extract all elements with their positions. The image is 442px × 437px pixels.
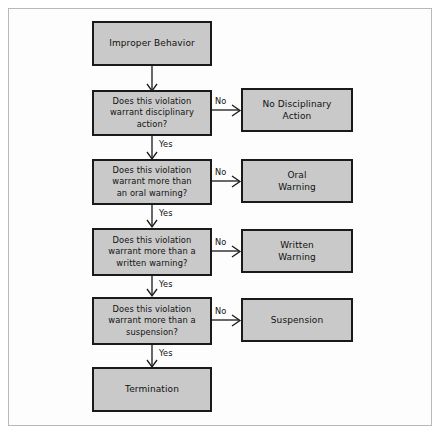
flowchart-canvas: Improper Behavior Does this violation wa… — [0, 0, 442, 437]
edge-label-no-1: No — [215, 96, 227, 106]
node-decision-more-than-oral-warning[interactable]: Does this violation warrant more than an… — [92, 159, 212, 205]
node-improper-behavior[interactable]: Improper Behavior — [92, 21, 212, 66]
edge-label-yes-2: Yes — [159, 208, 173, 218]
edge-label-yes-4: Yes — [159, 348, 173, 358]
node-no-disciplinary-action[interactable]: No Disciplinary Action — [241, 88, 353, 132]
node-termination[interactable]: Termination — [92, 367, 212, 412]
edge-label-no-3: No — [215, 237, 227, 247]
edge-label-no-4: No — [215, 306, 227, 316]
node-written-warning[interactable]: Written Warning — [241, 229, 353, 273]
node-decision-more-than-suspension[interactable]: Does this violation warrant more than a … — [92, 297, 212, 345]
node-decision-more-than-written-warning[interactable]: Does this violation warrant more than a … — [92, 228, 212, 276]
edge-label-no-2: No — [215, 167, 227, 177]
node-decision-warrant-disciplinary-action[interactable]: Does this violation warrant disciplinary… — [92, 90, 212, 136]
edge-label-yes-1: Yes — [159, 139, 173, 149]
connector-lines — [0, 0, 442, 437]
node-oral-warning[interactable]: Oral Warning — [241, 159, 353, 203]
edge-label-yes-3: Yes — [159, 279, 173, 289]
node-suspension[interactable]: Suspension — [241, 298, 353, 342]
